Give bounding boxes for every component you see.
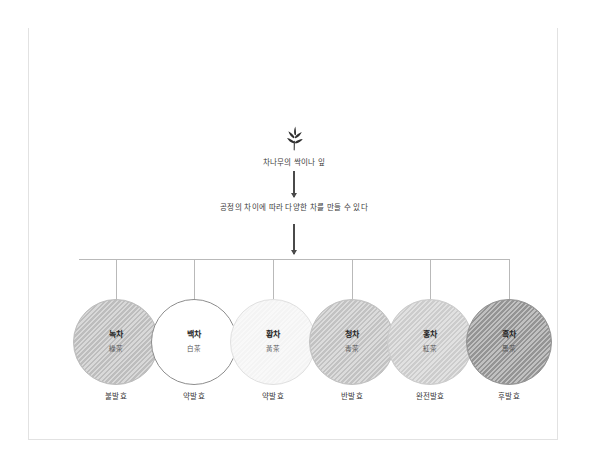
tea-name-korean: 흑차 [502, 331, 516, 339]
tea-name-hanja: 綠茶 [109, 346, 123, 353]
branch-connectors [29, 259, 559, 303]
tea-node[interactable]: 황차黃茶 [230, 299, 316, 385]
process-label: 공정의 차이에 따라 다양한 차를 만들 수 있다 [29, 201, 559, 212]
down-arrow-icon-1 [293, 171, 295, 197]
tea-name-hanja: 黃茶 [266, 346, 280, 353]
source-label: 차나무의 싹이나 잎 [29, 156, 559, 167]
tea-circle[interactable]: 흑차黑茶 [466, 299, 552, 385]
tea-node[interactable]: 백차白茶 [151, 299, 237, 385]
fermentation-label: 후발효 [459, 390, 559, 401]
tea-name-hanja: 靑茶 [345, 346, 359, 353]
tea-circle[interactable]: 홍차紅茶 [387, 299, 473, 385]
tea-circle[interactable]: 녹차綠茶 [73, 299, 159, 385]
branch-drop-line [509, 259, 510, 303]
tea-name-hanja: 黑茶 [502, 346, 516, 353]
tea-name-korean: 청차 [345, 331, 359, 339]
fermentation-label-row: 불발효약발효약발효반발효완전발효후발효 [29, 390, 559, 406]
tea-name-korean: 황차 [266, 331, 280, 339]
branch-drop-line [430, 259, 431, 303]
branch-drop-line [116, 259, 117, 303]
figure-body: 차나무의 싹이나 잎 공정의 차이에 따라 다양한 차를 만들 수 있다 녹차綠… [28, 28, 558, 440]
diagram-canvas: 차나무의 싹이나 잎 공정의 차이에 따라 다양한 차를 만들 수 있다 녹차綠… [29, 47, 559, 440]
branch-drop-line [352, 259, 353, 303]
tea-node[interactable]: 홍차紅茶 [387, 299, 473, 385]
tea-node[interactable]: 흑차黑茶 [466, 299, 552, 385]
tea-circle[interactable]: 청차靑茶 [309, 299, 395, 385]
tea-node[interactable]: 청차靑茶 [309, 299, 395, 385]
tea-name-korean: 백차 [187, 331, 201, 339]
tea-circle-row: 녹차綠茶백차白茶황차黃茶청차靑茶홍차紅茶흑차黑茶 [29, 299, 559, 399]
branch-drop-line [194, 259, 195, 303]
tea-circle[interactable]: 백차白茶 [151, 299, 237, 385]
branch-drop-line [273, 259, 274, 303]
tea-name-korean: 홍차 [423, 331, 437, 339]
tea-name-korean: 녹차 [109, 331, 123, 339]
branch-horizontal-bar [79, 259, 509, 260]
tea-name-hanja: 白茶 [187, 346, 201, 353]
tea-circle[interactable]: 황차黃茶 [230, 299, 316, 385]
down-arrow-icon-2 [293, 224, 295, 254]
tea-name-hanja: 紅茶 [423, 346, 437, 353]
tea-node[interactable]: 녹차綠茶 [73, 299, 159, 385]
sprout-icon [278, 125, 310, 151]
